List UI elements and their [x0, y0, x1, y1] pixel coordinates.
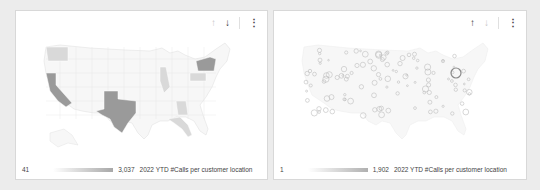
us-bubble-map[interactable] [278, 29, 522, 161]
location-bubble[interactable] [453, 54, 457, 58]
location-bubble[interactable] [460, 102, 464, 106]
state-florida[interactable] [168, 117, 192, 137]
legend-max: 3,037 [118, 166, 134, 173]
size-legend: 1 1,902 2022 YTD #Calls per customer loc… [280, 166, 507, 173]
state-pennsylvania[interactable] [190, 73, 206, 81]
color-legend: 41 3,037 2022 YTD #Calls per customer lo… [22, 166, 252, 173]
visual-toolbar: ↑ ↓ ⋮ [470, 17, 518, 29]
location-bubble[interactable] [463, 109, 469, 115]
location-bubble[interactable] [306, 90, 308, 92]
state-washington[interactable] [46, 47, 68, 61]
more-options-icon[interactable]: ⋮ [508, 17, 518, 29]
us-outline [302, 43, 488, 139]
drill-down-button[interactable]: ↓ [225, 17, 230, 29]
state-alaska[interactable] [50, 129, 78, 147]
us-outline [44, 43, 230, 139]
toolbar-divider [498, 17, 499, 29]
us-filled-map[interactable] [20, 29, 264, 161]
location-bubble[interactable] [467, 89, 473, 95]
more-options-icon[interactable]: ⋮ [249, 17, 259, 29]
drill-up-button[interactable]: ↑ [470, 17, 475, 29]
visual-toolbar: ↑ ↓ ⋮ [211, 17, 259, 29]
legend-title: 2022 YTD #Calls per customer location [394, 166, 507, 173]
location-bubble[interactable] [311, 110, 317, 116]
legend-min: 41 [22, 166, 29, 173]
location-bubble[interactable] [306, 99, 310, 103]
legend-max: 1,902 [373, 166, 389, 173]
location-bubble[interactable] [323, 108, 328, 113]
location-bubble[interactable] [468, 93, 470, 95]
legend-min: 1 [280, 166, 284, 173]
drill-up-button[interactable]: ↑ [211, 17, 216, 29]
legend-title: 2022 YTD #Calls per customer location [140, 166, 253, 173]
filled-map-panel: ↑ ↓ ⋮ 41 3,037 2022 YTD #Calls per custo… [15, 10, 268, 180]
legend-gradient [308, 168, 368, 172]
state-georgia[interactable] [176, 101, 188, 115]
drill-down-button[interactable]: ↓ [484, 17, 489, 29]
toolbar-divider [239, 17, 240, 29]
legend-gradient [53, 168, 113, 172]
location-bubble[interactable] [330, 109, 335, 114]
bubble-map-panel: ↑ ↓ ⋮ 1 1,902 2022 YTD #Calls per custom… [273, 10, 527, 180]
